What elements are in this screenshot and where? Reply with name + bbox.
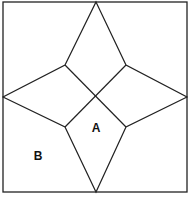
label-b: B [34, 149, 43, 163]
label-a: A [92, 121, 101, 135]
star-diagram: A B [0, 0, 193, 198]
